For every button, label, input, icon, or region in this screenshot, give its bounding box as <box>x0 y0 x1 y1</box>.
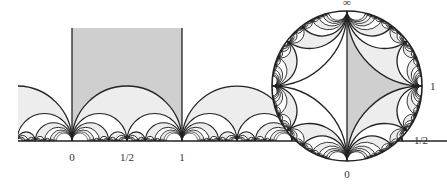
label-one: 1 <box>430 80 436 92</box>
farey-tessellation-figure: 0 1/2 1 ∞ 1 1/2 0 <box>0 0 447 185</box>
label-infinity: ∞ <box>343 0 351 8</box>
label-zero: 0 <box>69 151 75 163</box>
half-plane-labels: 0 1/2 1 <box>69 151 185 163</box>
label-one-half: 1/2 <box>414 134 428 146</box>
poincare-disk-diagram <box>272 11 422 161</box>
label-one-half: 1/2 <box>120 151 134 163</box>
label-one: 1 <box>179 151 185 163</box>
label-zero: 0 <box>344 168 350 180</box>
